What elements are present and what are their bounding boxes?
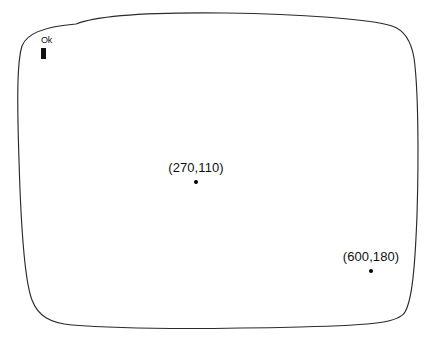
coordinate-point: (600,180) <box>309 249 433 278</box>
coordinate-label: (600,180) <box>309 249 433 264</box>
screen-content-layer: Ok (270,110) (600,180) <box>0 0 435 338</box>
coordinate-marker-wrap <box>309 264 433 278</box>
block-cursor-icon <box>41 48 46 59</box>
terminal-prompt: Ok <box>41 36 81 59</box>
dot-icon <box>194 180 198 184</box>
terminal-screen-diagram: Ok (270,110) (600,180) <box>0 0 435 338</box>
coordinate-marker-wrap <box>134 175 258 189</box>
dot-icon <box>369 269 373 273</box>
coordinate-label: (270,110) <box>134 160 258 175</box>
prompt-text: Ok <box>41 36 81 45</box>
coordinate-point: (270,110) <box>134 160 258 189</box>
